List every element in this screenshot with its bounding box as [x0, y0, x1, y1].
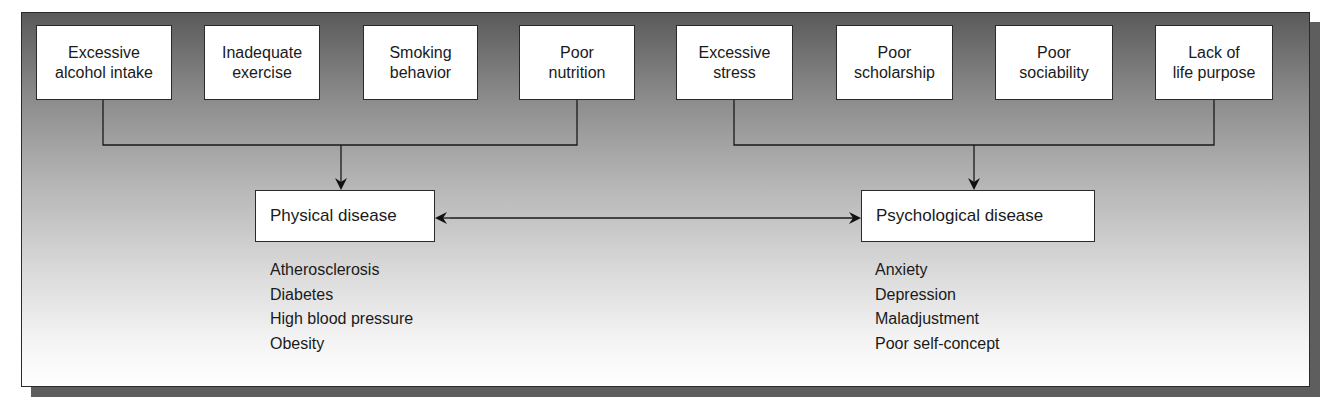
psychological-disease-box: Psychological disease — [861, 190, 1095, 242]
factor-box-stress: Excessive stress — [676, 25, 793, 100]
factor-box-scholarship: Poor scholarship — [836, 25, 953, 100]
physical-disease-examples: Atherosclerosis Diabetes High blood pres… — [270, 258, 413, 356]
list-item: Obesity — [270, 332, 413, 357]
list-item: Poor self-concept — [875, 332, 1000, 357]
connector-lines — [0, 0, 1332, 412]
list-item: High blood pressure — [270, 307, 413, 332]
list-item: Anxiety — [875, 258, 1000, 283]
factor-box-life-purpose: Lack of life purpose — [1155, 25, 1273, 100]
factor-box-alcohol: Excessive alcohol intake — [36, 25, 172, 100]
list-item: Depression — [875, 283, 1000, 308]
factor-box-sociability: Poor sociability — [995, 25, 1113, 100]
list-item: Maladjustment — [875, 307, 1000, 332]
factor-box-nutrition: Poor nutrition — [519, 25, 635, 100]
physical-disease-box: Physical disease — [255, 190, 435, 242]
psychological-disease-examples: Anxiety Depression Maladjustment Poor se… — [875, 258, 1000, 356]
list-item: Diabetes — [270, 283, 413, 308]
list-item: Atherosclerosis — [270, 258, 413, 283]
factor-box-exercise: Inadequate exercise — [204, 25, 320, 100]
factor-box-smoking: Smoking behavior — [363, 25, 478, 100]
